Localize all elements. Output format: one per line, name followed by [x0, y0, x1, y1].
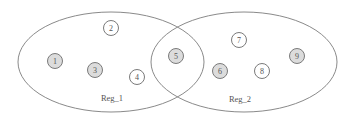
node-label: 5: [174, 52, 178, 61]
node-2: 2: [104, 21, 119, 36]
node-8: 8: [255, 64, 270, 79]
node-label: 1: [53, 57, 57, 66]
node-label: 6: [218, 67, 222, 76]
node-9: 9: [290, 49, 305, 64]
region-label: Reg_2: [229, 94, 251, 104]
region-label: Reg_1: [101, 93, 123, 103]
node-3: 3: [88, 63, 103, 78]
node-6: 6: [213, 64, 228, 79]
node-4: 4: [130, 70, 145, 85]
venn-diagram: 123456789 Reg_1Reg_2: [0, 0, 354, 115]
node-label: 3: [93, 66, 97, 75]
node-label: 7: [237, 36, 241, 45]
node-5: 5: [169, 49, 184, 64]
node-label: 4: [135, 73, 139, 82]
nodes-layer: 123456789: [48, 21, 305, 85]
node-label: 9: [295, 52, 299, 61]
node-7: 7: [232, 33, 247, 48]
node-label: 8: [260, 67, 264, 76]
node-1: 1: [48, 54, 63, 69]
node-label: 2: [109, 24, 113, 33]
region-labels-layer: Reg_1Reg_2: [101, 93, 251, 104]
